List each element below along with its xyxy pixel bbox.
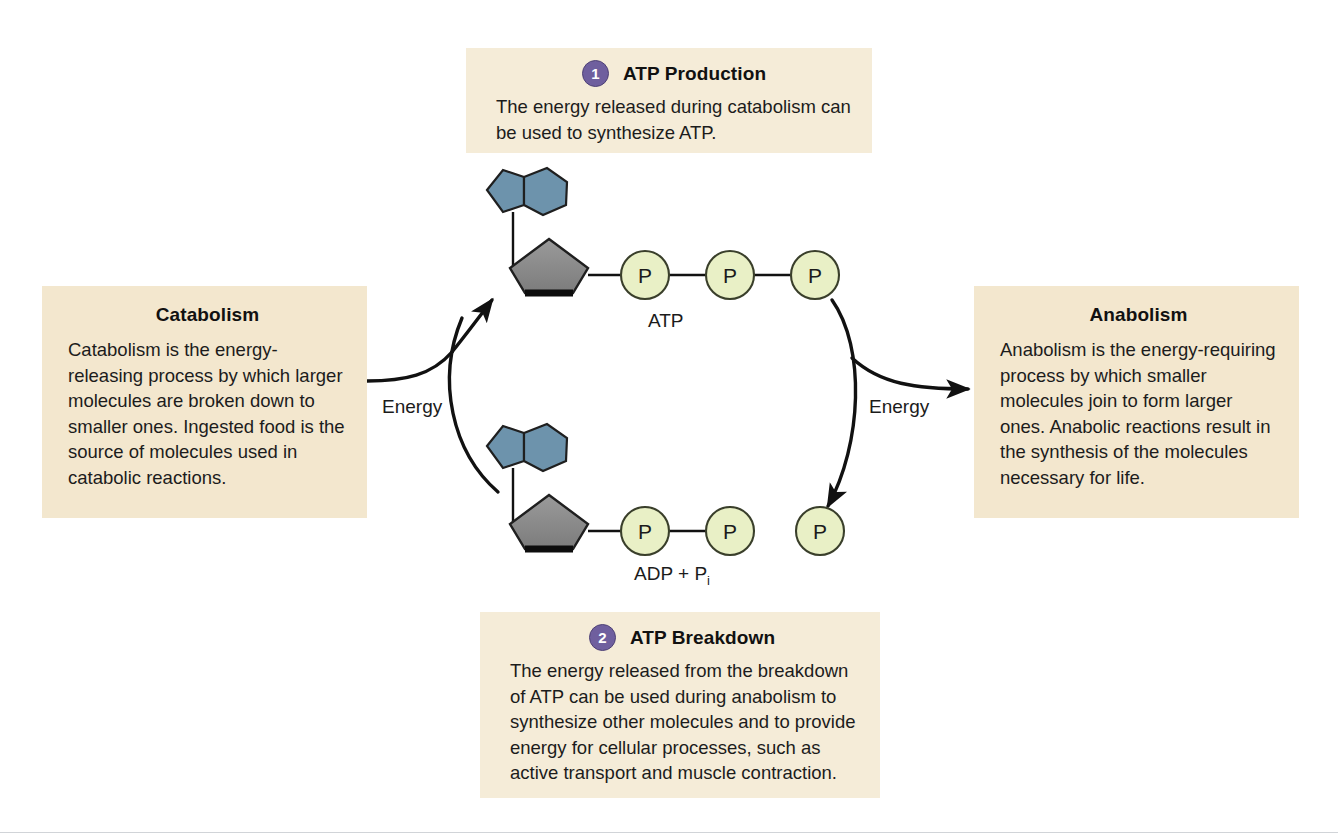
atp-adenine-pentagon	[487, 170, 524, 212]
atp-ribose-pentagon	[510, 239, 588, 293]
atp-phosphate-1	[621, 251, 669, 299]
atp-molecule: P P P	[487, 168, 839, 299]
atp-phosphate-2	[706, 251, 754, 299]
atp-phosphate-3	[791, 251, 839, 299]
energy-label-right: Energy	[869, 396, 929, 418]
catabolism-callout: Catabolism Catabolism is the energy-rele…	[42, 286, 367, 518]
step-2-number-badge: 2	[589, 624, 616, 651]
catabolism-body: Catabolism is the energy-releasing proce…	[68, 337, 347, 490]
step-1-title: ATP Production	[623, 63, 766, 85]
adp-phosphate-1-label: P	[638, 520, 652, 543]
step-2-header: 2 ATP Breakdown	[480, 624, 880, 651]
adp-to-atp-arc	[450, 318, 498, 492]
adp-caption-main: ADP + P	[634, 563, 707, 584]
catabolism-energy-arrow	[367, 300, 492, 381]
adp-caption-subscript: i	[707, 573, 710, 588]
step-2-callout: 2 ATP Breakdown The energy released from…	[480, 612, 880, 798]
free-inorganic-phosphate-label: P	[813, 520, 827, 543]
step-1-header: 1 ATP Production	[466, 60, 872, 87]
adp-adenine-hexagon	[524, 424, 567, 471]
anabolism-title: Anabolism	[1000, 304, 1277, 326]
atp-phosphate-3-label: P	[808, 264, 822, 287]
step-1-number-badge: 1	[582, 60, 609, 87]
catabolism-title: Catabolism	[68, 304, 347, 326]
energy-label-left: Energy	[382, 396, 442, 418]
atp-adenine-hexagon	[524, 168, 567, 215]
adp-molecule: P P P	[487, 424, 844, 555]
anabolism-energy-arrow	[852, 358, 968, 389]
adp-adenine-pentagon	[487, 426, 524, 468]
adp-phosphate-1	[621, 507, 669, 555]
atp-to-adp-arc	[828, 300, 856, 506]
anabolism-body: Anabolism is the energy-requiring proces…	[1000, 337, 1277, 490]
atp-caption: ATP	[648, 310, 684, 332]
adp-caption: ADP + Pi	[634, 563, 710, 588]
adp-phosphate-2-label: P	[723, 520, 737, 543]
free-inorganic-phosphate	[796, 507, 844, 555]
atp-phosphate-1-label: P	[638, 264, 652, 287]
anabolism-callout: Anabolism Anabolism is the energy-requir…	[974, 286, 1299, 518]
diagram-canvas: P P P P P P 1 ATP Production	[0, 0, 1338, 840]
step-1-callout: 1 ATP Production The energy released dur…	[466, 48, 872, 153]
page-bottom-rule	[0, 832, 1338, 833]
atp-phosphate-2-label: P	[723, 264, 737, 287]
step-2-title: ATP Breakdown	[630, 627, 775, 649]
adp-ribose-pentagon	[510, 495, 588, 549]
adp-phosphate-2	[706, 507, 754, 555]
step-1-body: The energy released during catabolism ca…	[466, 94, 872, 145]
step-2-body: The energy released from the breakdown o…	[480, 658, 880, 786]
